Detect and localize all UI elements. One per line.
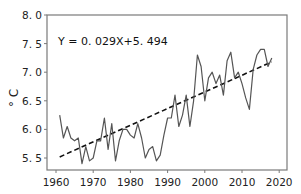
x-tick-label: 2010 [229, 176, 256, 188]
x-tick-label: 1970 [80, 176, 107, 188]
y-tick-label: 8. 0 [22, 9, 42, 21]
y-tick-label: 7. 5 [22, 38, 42, 50]
regression-equation: Y = 0. 029X+5. 494 [57, 35, 168, 48]
temperature-trend-chart: 5. 56. 06. 57. 07. 58. 0 196019701980199… [0, 0, 301, 194]
y-tick-label: 7. 0 [22, 66, 42, 78]
y-tick-label: 6. 0 [22, 123, 42, 135]
y-tick-label: 5. 5 [22, 152, 42, 164]
y-axis: 5. 56. 06. 57. 07. 58. 0 [22, 9, 47, 164]
x-tick-label: 1990 [154, 176, 181, 188]
x-tick-label: 2000 [191, 176, 218, 188]
x-tick-label: 1960 [43, 176, 70, 188]
y-axis-label: ° C [7, 89, 21, 107]
y-tick-label: 6. 5 [22, 95, 42, 107]
x-tick-label: 2020 [266, 176, 293, 188]
x-tick-label: 1980 [117, 176, 144, 188]
x-axis: 1960197019801990200020102020 [43, 170, 293, 188]
